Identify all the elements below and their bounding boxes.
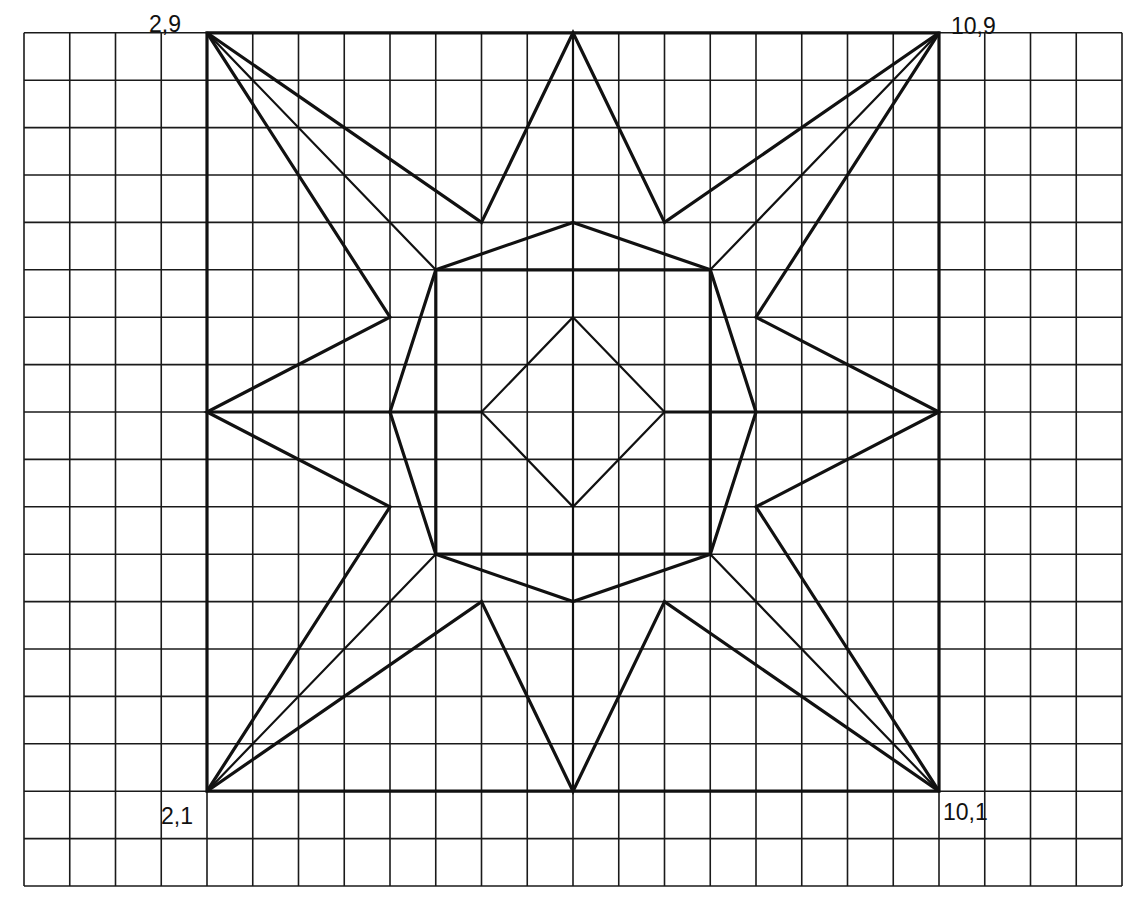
corner-diagonal-line xyxy=(710,33,939,270)
star-diagram xyxy=(0,0,1142,909)
star-figure xyxy=(207,33,939,791)
coordinate-label-10-9: 10,9 xyxy=(951,15,996,38)
coordinate-label-2-9: 2,9 xyxy=(149,13,181,36)
corner-diagonal-line xyxy=(207,554,436,791)
corner-diagonal-line xyxy=(207,33,436,270)
coordinate-label-2-1: 2,1 xyxy=(161,805,193,828)
coordinate-label-10-1: 10,1 xyxy=(943,801,988,824)
corner-diagonal-line xyxy=(710,554,939,791)
